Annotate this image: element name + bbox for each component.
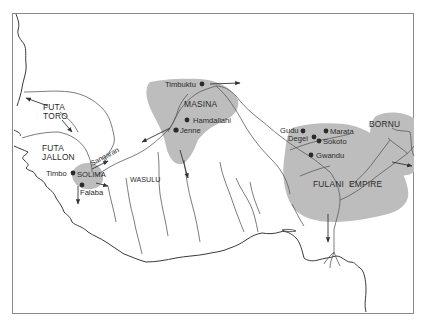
- hamdallahi-dot: [185, 118, 190, 123]
- gudu-dot: [301, 129, 306, 134]
- sokoto-dot: [317, 139, 322, 144]
- marata-dot: [324, 129, 329, 134]
- label-timbo: Timbo: [46, 169, 67, 178]
- label-gwandu: Gwandu: [316, 151, 344, 160]
- label-degel: Degel: [288, 134, 308, 143]
- label-jenne: Jenne: [180, 126, 201, 135]
- label-solima: SOLIMA: [77, 170, 107, 179]
- label-bornu: BORNU: [369, 119, 400, 129]
- label-futa-toro-2: TORO: [43, 111, 68, 121]
- label-masina: MASINA: [184, 99, 218, 109]
- timbuktu-dot: [200, 82, 205, 87]
- gwandu-dot: [309, 153, 314, 158]
- label-fulani-empire: FULANI EMPIRE: [313, 179, 383, 189]
- label-hamdallahi: Hamdallahi: [193, 116, 231, 125]
- label-marata: Marata: [330, 127, 354, 136]
- degel-dot: [312, 135, 317, 140]
- map-canvas: FUTA TORO FUTA JALLON MASINA WASULU FULA…: [0, 0, 424, 324]
- label-wasulu: WASULU: [130, 175, 160, 184]
- label-futa-jallon-2: JALLON: [42, 152, 75, 162]
- label-timbuktu: Timbuktu: [165, 80, 196, 89]
- jenne-dot: [173, 127, 178, 132]
- timbo-dot: [71, 171, 76, 176]
- label-sokoto: Sokoto: [323, 137, 347, 146]
- label-falaba: Falaba: [80, 188, 104, 197]
- falaba-dot: [80, 183, 85, 188]
